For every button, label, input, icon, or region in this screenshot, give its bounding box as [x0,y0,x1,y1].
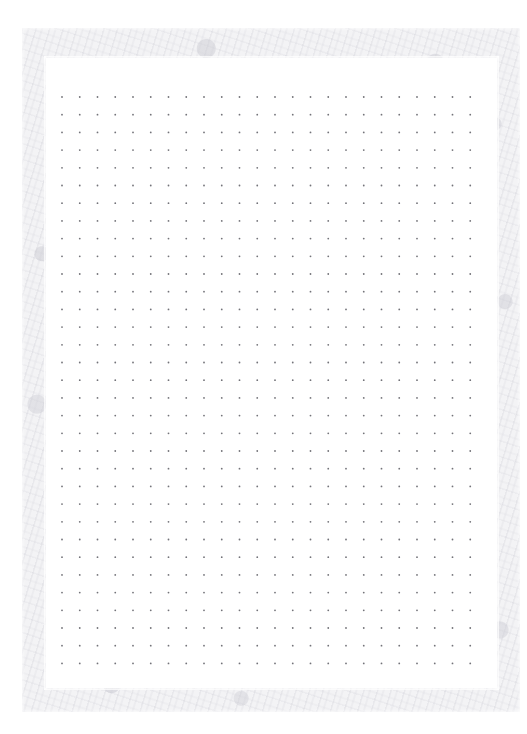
dot-grid-area[interactable] [46,58,497,688]
inner-white-sheet [46,58,497,688]
dot-grid-svg [46,58,497,688]
notebook-page [0,0,527,734]
